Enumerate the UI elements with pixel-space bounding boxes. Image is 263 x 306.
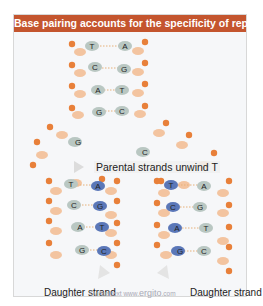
svg-text:G: G (197, 203, 203, 212)
svg-text:G: G (177, 247, 183, 256)
svg-text:G: G (75, 138, 81, 147)
svg-text:C: C (201, 247, 207, 256)
replication-figure: Base pairing accounts for the specificit… (13, 14, 247, 297)
dna-replication-diagram: T A C G A T G C (14, 15, 248, 298)
watermark: ©virtualtext www.ergito.com (89, 288, 176, 298)
replication-fork: G C (30, 120, 217, 189)
right-daughter-duplex: T A C G A T G C (154, 178, 232, 274)
svg-text:C: C (101, 247, 107, 256)
svg-text:G: G (79, 246, 85, 255)
svg-text:G: G (97, 202, 103, 211)
svg-text:C: C (119, 107, 125, 116)
svg-text:A: A (95, 86, 101, 95)
daughter-strand-label-right: Daughter strand (190, 287, 262, 298)
left-daughter-duplex: T A C G A T G C (46, 178, 120, 268)
svg-text:G: G (121, 65, 127, 74)
svg-text:T: T (204, 224, 209, 233)
svg-text:C: C (170, 203, 176, 212)
svg-text:A: A (122, 42, 128, 51)
svg-text:G: G (96, 108, 102, 117)
svg-text:A: A (77, 223, 83, 232)
svg-text:T: T (100, 223, 105, 232)
right-daughter-arrow (157, 265, 169, 279)
svg-text:T: T (120, 86, 125, 95)
svg-text:C: C (92, 63, 98, 72)
svg-text:T: T (69, 180, 74, 189)
svg-text:A: A (174, 224, 180, 233)
unwind-label: Parental strands unwind T (94, 161, 220, 173)
svg-text:C: C (71, 201, 77, 210)
svg-text:T: T (90, 42, 95, 51)
svg-text:T: T (169, 181, 174, 190)
left-daughter-arrow (98, 265, 110, 279)
svg-text:C: C (142, 148, 148, 157)
parental-helix: T A C G A T G C (69, 39, 148, 119)
svg-text:A: A (201, 182, 207, 191)
svg-text:A: A (95, 182, 101, 191)
